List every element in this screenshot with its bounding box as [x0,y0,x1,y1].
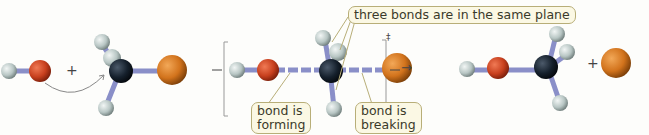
left-bracket [224,42,228,116]
leader-lines [268,17,372,104]
hydroxide-ion [1,60,51,82]
plus-sign: + [66,62,78,78]
sn2-diagram: + + ‡ → three bonds are in the same plan… [0,0,649,135]
bond-breaking-label: bond is breaking [355,102,422,134]
plus-sign: + [587,55,599,71]
double-dagger: ‡ [386,32,391,42]
plane-label: three bonds are in the same plane [348,6,576,24]
bond-forming-label: bond is forming [251,102,311,134]
methanol [459,26,575,111]
methyl-halide [94,34,187,116]
halide-ion [601,48,631,78]
reaction-arrow-icon: → [401,60,412,75]
